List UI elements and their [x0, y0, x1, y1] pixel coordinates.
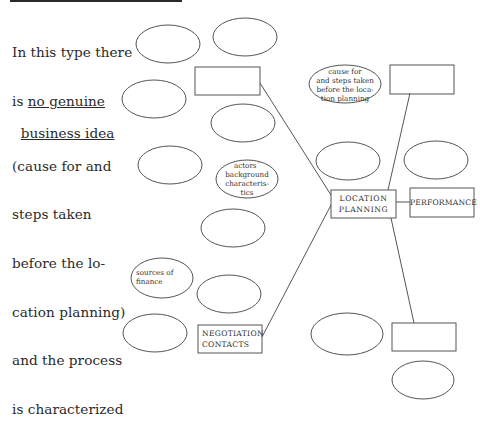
- connector-bottom-right-box: [391, 218, 414, 323]
- text-line: In this type there: [12, 44, 360, 60]
- ellipse-empty-10: [404, 141, 468, 179]
- label-cause: cause for and steps taken before the loc…: [309, 67, 381, 103]
- text-line: cation planning): [12, 304, 360, 320]
- label-location-planning: LOCATION PLANNING: [331, 193, 396, 215]
- body-text: In this type there is no genuine busines…: [12, 12, 360, 427]
- emphasis-underlined: no genuine: [28, 93, 105, 109]
- emphasis-underlined: business idea: [21, 125, 115, 141]
- ellipse-empty-12: [392, 361, 454, 399]
- box-empty-bottom-right: [392, 323, 456, 351]
- label-performance: PERFORMANCE: [410, 197, 474, 208]
- text-line: (cause for and: [12, 158, 360, 174]
- text-line: is no genuine: [12, 93, 360, 109]
- text-line: and the process: [12, 352, 360, 368]
- text-line: is characterized: [12, 401, 360, 417]
- box-empty-top-right: [390, 65, 454, 94]
- label-negotiation: NEGOTIATION CONTACTS: [202, 328, 262, 350]
- label-finance: sources of finance: [136, 268, 180, 286]
- text-line: steps taken: [12, 206, 360, 222]
- label-actors: actors´ background characteris- tics: [217, 161, 277, 197]
- text-line: before the lo-: [12, 255, 360, 271]
- connector-top-right-box: [388, 93, 410, 190]
